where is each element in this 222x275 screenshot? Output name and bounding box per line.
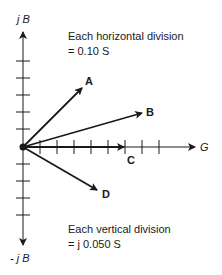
vector-d (23, 147, 97, 190)
horizontal-division-note-line1: Each horizontal division (68, 30, 184, 42)
positive-jb-axis-label: j B (15, 13, 30, 25)
vector-c-label: C (127, 154, 135, 166)
negative-jb-axis-label: - j B (10, 252, 30, 264)
vertical-division-note-line2: = j 0.050 S (68, 238, 121, 250)
origin-dot (20, 144, 27, 151)
vector-a-label: A (85, 75, 93, 87)
vertical-axis (16, 32, 30, 245)
horizontal-division-note-line2: = 0.10 S (68, 45, 109, 57)
vector-b-label: B (146, 106, 154, 118)
vector-d-label: D (102, 188, 110, 200)
phasor-diagram: j B - j B G A B C D Each horizontal divi… (0, 0, 222, 275)
g-axis-label: G (200, 141, 209, 153)
vertical-division-note-line1: Each vertical division (68, 223, 171, 235)
